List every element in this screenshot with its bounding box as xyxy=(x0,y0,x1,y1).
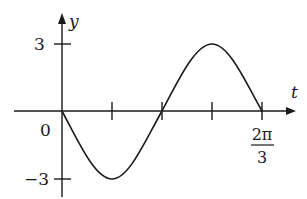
x-end-denominator: 3 xyxy=(257,148,267,167)
y-axis-arrow-icon xyxy=(58,13,66,24)
x-end-numerator: 2π xyxy=(252,125,273,144)
x-axis-arrow-icon xyxy=(286,107,296,115)
y-max-label: 3 xyxy=(34,34,45,54)
y-axis-label: y xyxy=(68,11,79,31)
y-min-label: −3 xyxy=(24,169,49,189)
x-axis-label: t xyxy=(291,82,298,102)
origin-label: 0 xyxy=(40,120,51,140)
chart-canvas: y t 3 −3 0 2π 3 xyxy=(0,0,307,199)
